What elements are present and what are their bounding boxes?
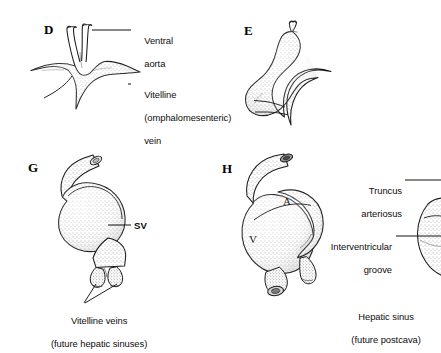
label-ventricle: V (249, 233, 257, 245)
label-atrium: A (283, 195, 291, 207)
label-ventral-aorta-line1: Ventral (144, 35, 173, 46)
label-vitelline-vein: Vitelline (omphalomesenteric) vein (134, 77, 231, 158)
panel-e-heart-tube (246, 21, 331, 125)
label-hepatic-sinus-line2: (future postcava) (351, 334, 421, 345)
label-hepatic-sinus-postcava: Hepatic sinus (future postcava) (321, 299, 441, 353)
label-hepatic-sinus-line1: Hepatic sinus (358, 311, 414, 322)
panel-letter-h: H (222, 161, 232, 177)
label-truncus-arteriosus: Truncus arteriosus (300, 173, 402, 231)
label-truncus-line1: Truncus (369, 185, 402, 196)
panel-g-heart (59, 155, 126, 303)
label-vitelline-veins-hepatic: Vitelline veins (future hepatic sinuses) (14, 303, 174, 353)
label-vitelline-vein-line3: vein (144, 135, 161, 146)
panel-letter-e: E (244, 23, 253, 39)
label-ventral-aorta: Ventral aorta (134, 23, 173, 81)
label-vitelline-veins-line1: Vitelline veins (71, 315, 127, 326)
label-interventricular-groove: Interventricular groove (290, 229, 392, 287)
panel-letter-g: G (28, 160, 38, 176)
label-vitelline-vein-line2: (omphalomesenteric) (144, 112, 231, 123)
label-vitelline-veins-line2: (future hepatic sinuses) (51, 338, 147, 349)
label-interventricular-line2: groove (364, 264, 392, 275)
label-vitelline-vein-line1: Vitelline (144, 89, 176, 100)
panel-right-cropped (418, 198, 441, 277)
label-ventral-aorta-line2: aorta (144, 58, 165, 69)
label-interventricular-line1: Interventricular (331, 241, 392, 252)
panel-letter-d: D (44, 22, 54, 38)
label-truncus-line2: arteriosus (361, 208, 402, 219)
label-sv: SV (134, 220, 147, 231)
